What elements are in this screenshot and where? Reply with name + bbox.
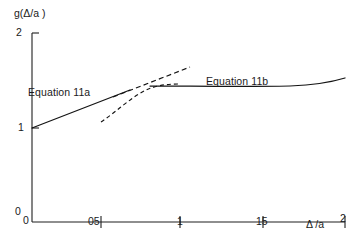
annotation-equation-11b: Equation 11b xyxy=(206,76,268,87)
plot-canvas xyxy=(0,0,358,249)
x-tick-label-0: 0 xyxy=(23,215,29,226)
x-tick-label-15: 15 xyxy=(256,216,268,227)
x-axis-title: Δ /a xyxy=(306,219,324,230)
y-tick-label-0: 0 xyxy=(15,206,21,217)
y-tick-label-1: 1 xyxy=(18,122,24,133)
curve-equation-11a-dashed xyxy=(113,67,190,97)
figure-container: g(Δ/a ) 2 1 0 0 05 1 15 2 Δ /a Equation … xyxy=(0,0,358,249)
x-tick-label-2: 2 xyxy=(340,213,346,224)
curve-equation-11b-dashed xyxy=(101,84,178,122)
annotation-equation-11a: Equation 11a xyxy=(28,87,90,98)
y-tick-label-2: 2 xyxy=(16,27,22,38)
x-tick-label-1: 1 xyxy=(177,216,183,227)
x-tick-label-05: 05 xyxy=(88,216,100,227)
y-axis-title: g(Δ/a ) xyxy=(14,8,46,19)
